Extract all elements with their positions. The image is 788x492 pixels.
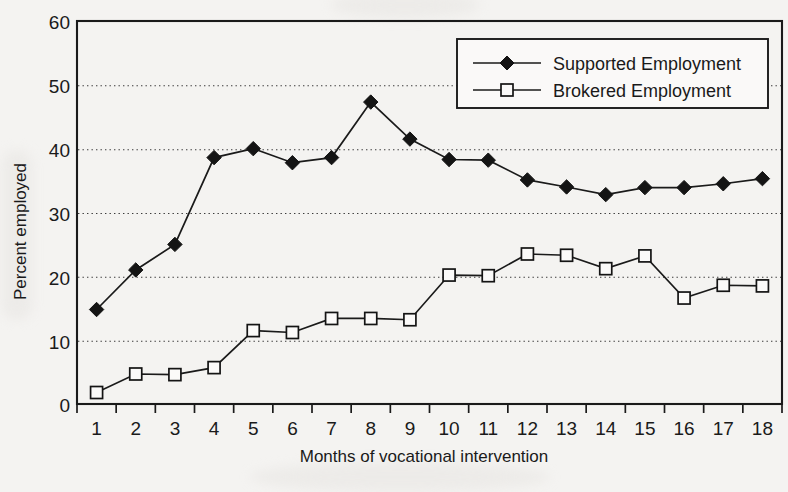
data-point-filled-diamond xyxy=(246,141,260,155)
y-tick-label-60: 60 xyxy=(49,12,70,33)
y-tick-label-10: 10 xyxy=(49,332,70,353)
y-tick-label-50: 50 xyxy=(49,76,70,97)
data-point-filled-diamond xyxy=(442,152,456,166)
data-point-open-square xyxy=(561,249,573,261)
x-tickmarks xyxy=(77,404,782,413)
x-tick-labels: 123456789101112131415161718 xyxy=(91,418,773,439)
data-point-open-square xyxy=(91,387,103,399)
data-point-open-square xyxy=(169,369,181,381)
x-tick-label: 15 xyxy=(634,418,655,439)
data-point-open-square xyxy=(208,362,220,374)
data-point-open-square xyxy=(286,327,298,339)
data-point-open-square xyxy=(639,250,651,262)
data-point-open-square xyxy=(482,270,494,282)
y-axis-title: Percent employed xyxy=(11,163,30,300)
chart-legend: Supported Employment Brokered Employment xyxy=(457,39,768,108)
data-point-open-square xyxy=(678,292,690,304)
x-tick-label: 8 xyxy=(365,418,376,439)
data-point-filled-diamond xyxy=(716,177,730,191)
legend-label-supported: Supported Employment xyxy=(553,54,741,74)
data-point-filled-diamond xyxy=(638,180,652,194)
y-tick-label-20: 20 xyxy=(49,268,70,289)
data-point-open-square xyxy=(130,368,142,380)
data-point-filled-diamond xyxy=(677,180,691,194)
legend-label-brokered: Brokered Employment xyxy=(553,81,731,101)
gridlines xyxy=(78,86,781,341)
data-point-filled-diamond xyxy=(481,153,495,167)
x-axis-title: Months of vocational intervention xyxy=(300,447,549,466)
data-point-open-square xyxy=(404,314,416,326)
data-point-open-square xyxy=(247,325,259,337)
y-tick-label-0: 0 xyxy=(59,395,70,416)
x-tick-label: 4 xyxy=(209,418,220,439)
data-point-open-square xyxy=(326,312,338,324)
data-point-filled-diamond xyxy=(520,173,534,187)
data-point-filled-diamond xyxy=(207,150,221,164)
x-tick-label: 9 xyxy=(405,418,416,439)
x-tick-label: 17 xyxy=(713,418,734,439)
data-point-filled-diamond xyxy=(755,171,769,185)
y-tick-label-30: 30 xyxy=(49,204,70,225)
data-point-filled-diamond xyxy=(599,187,613,201)
data-point-open-square xyxy=(756,280,768,292)
data-point-open-square xyxy=(365,312,377,324)
x-tick-label: 6 xyxy=(287,418,298,439)
x-tick-label: 5 xyxy=(248,418,259,439)
x-tick-label: 2 xyxy=(130,418,141,439)
open-square-icon xyxy=(501,84,513,96)
x-tick-label: 16 xyxy=(674,418,695,439)
series-line xyxy=(97,102,763,309)
x-tick-label: 11 xyxy=(478,418,498,439)
x-tick-label: 13 xyxy=(556,418,577,439)
x-tick-label: 12 xyxy=(517,418,538,439)
x-tick-label: 7 xyxy=(326,418,337,439)
data-point-filled-diamond xyxy=(168,237,182,251)
x-tick-label: 1 xyxy=(91,418,102,439)
data-point-open-square xyxy=(443,269,455,281)
x-tick-label: 10 xyxy=(439,418,460,439)
data-point-open-square xyxy=(717,279,729,291)
series-supported-employment xyxy=(89,95,769,317)
x-tick-label: 3 xyxy=(170,418,181,439)
data-point-filled-diamond xyxy=(559,180,573,194)
x-tick-label: 18 xyxy=(752,418,773,439)
series-brokered-employment xyxy=(91,248,769,399)
x-tick-label: 14 xyxy=(595,418,617,439)
data-point-open-square xyxy=(600,263,612,275)
series-line xyxy=(97,254,763,393)
data-point-open-square xyxy=(521,248,533,260)
data-point-filled-diamond xyxy=(324,150,338,164)
data-point-filled-diamond xyxy=(285,156,299,170)
y-tick-label-40: 40 xyxy=(49,140,70,161)
